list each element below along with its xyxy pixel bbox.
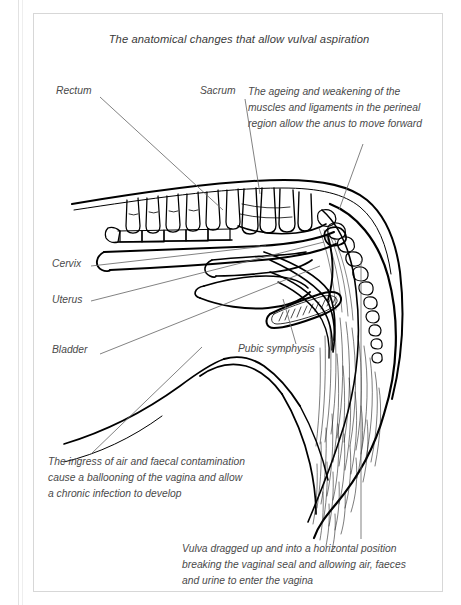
tail-outer-contour [314,204,396,538]
dorsal-contour-inner [74,188,391,274]
bladder-dorsal [204,276,308,288]
leader-uterus [91,242,324,301]
label-bladder: Bladder [52,345,88,356]
annotation-vaginal-ballooning-line-1: The ingress of air and faecal contaminat… [48,454,288,470]
leader-bladder [100,266,320,354]
leader-cervix [91,246,266,266]
annotation-vaginal-ballooning-line-3: a chronic infection to develop [48,486,288,502]
vagina-dorsal [270,272,332,350]
caudal-vertebrae-tail [318,210,383,363]
page-root: The anatomical changes that allow vulval… [0,0,461,605]
hind-limb-contour-inner [300,406,328,480]
abdominal-wall-cranial [64,359,224,444]
anus [324,227,346,246]
uterus-ventral [216,260,312,276]
label-rectum: Rectum [56,86,91,97]
tail-hair [313,314,381,550]
uterus-dorsal [212,252,306,260]
leader-rectum [100,97,223,210]
label-cervix: Cervix [52,259,81,270]
rectum-cranial-end [97,252,110,271]
lumbar-tip [105,227,120,242]
annotation-vulva-dragged-line-2: breaking the vaginal seal and allowing a… [182,557,440,573]
annotation-vaginal-ballooning-line-2: cause a ballooning of the vagina and all… [48,470,288,486]
label-sacrum: Sacrum [200,86,235,97]
sacrum [238,188,326,234]
figure-title: The anatomical changes that allow vulval… [34,33,444,45]
annotation-vulva-dragged: Vulva dragged up and into a horizontal p… [182,541,440,589]
dorsal-contour [72,180,402,399]
label-pubic-symphysis: Pubic symphysis [238,344,315,355]
annotation-anus-forward: The ageing and weakening of the muscles … [248,84,444,132]
tail-hair-base-fan [319,228,353,320]
annotation-anus-forward-line-3: region allow the anus to move forward [248,116,444,132]
page-edge-rule-inner [22,0,23,605]
anal-canal [328,236,333,300]
uterine-horn-end [205,260,216,277]
leader-ballooning [91,347,202,454]
label-uterus: Uterus [52,295,82,306]
bladder-apex [195,286,204,298]
lumbar-vertebrae [126,189,240,233]
page-edge-rule-outer [18,0,19,605]
bladder-ventral [200,292,310,309]
annotation-vulva-dragged-line-3: and urine to enter the vagina [182,573,440,589]
pubic-symphysis [267,292,342,328]
lumbar-vertebral-bodies [118,229,232,242]
perineal-region [264,252,335,352]
annotation-vaginal-ballooning: The ingress of air and faecal contaminat… [48,454,288,502]
annotation-anus-forward-line-2: muscles and ligaments in the perineal [248,100,444,116]
rectum-dorsal-wall [104,232,334,252]
leader-anus-forward [339,144,363,210]
figure-frame: The anatomical changes that allow vulval… [33,13,443,592]
abdominal-wall-caudal [224,357,300,406]
annotation-anus-forward-line-1: The ageing and weakening of the [248,84,444,100]
tail-inner-contour [308,210,358,522]
rectum-ventral-wall [110,244,336,270]
udder-contour [200,364,282,394]
leader-pubic-symphysis [283,299,296,344]
annotation-vulva-dragged-line-1: Vulva dragged up and into a horizontal p… [182,541,440,557]
